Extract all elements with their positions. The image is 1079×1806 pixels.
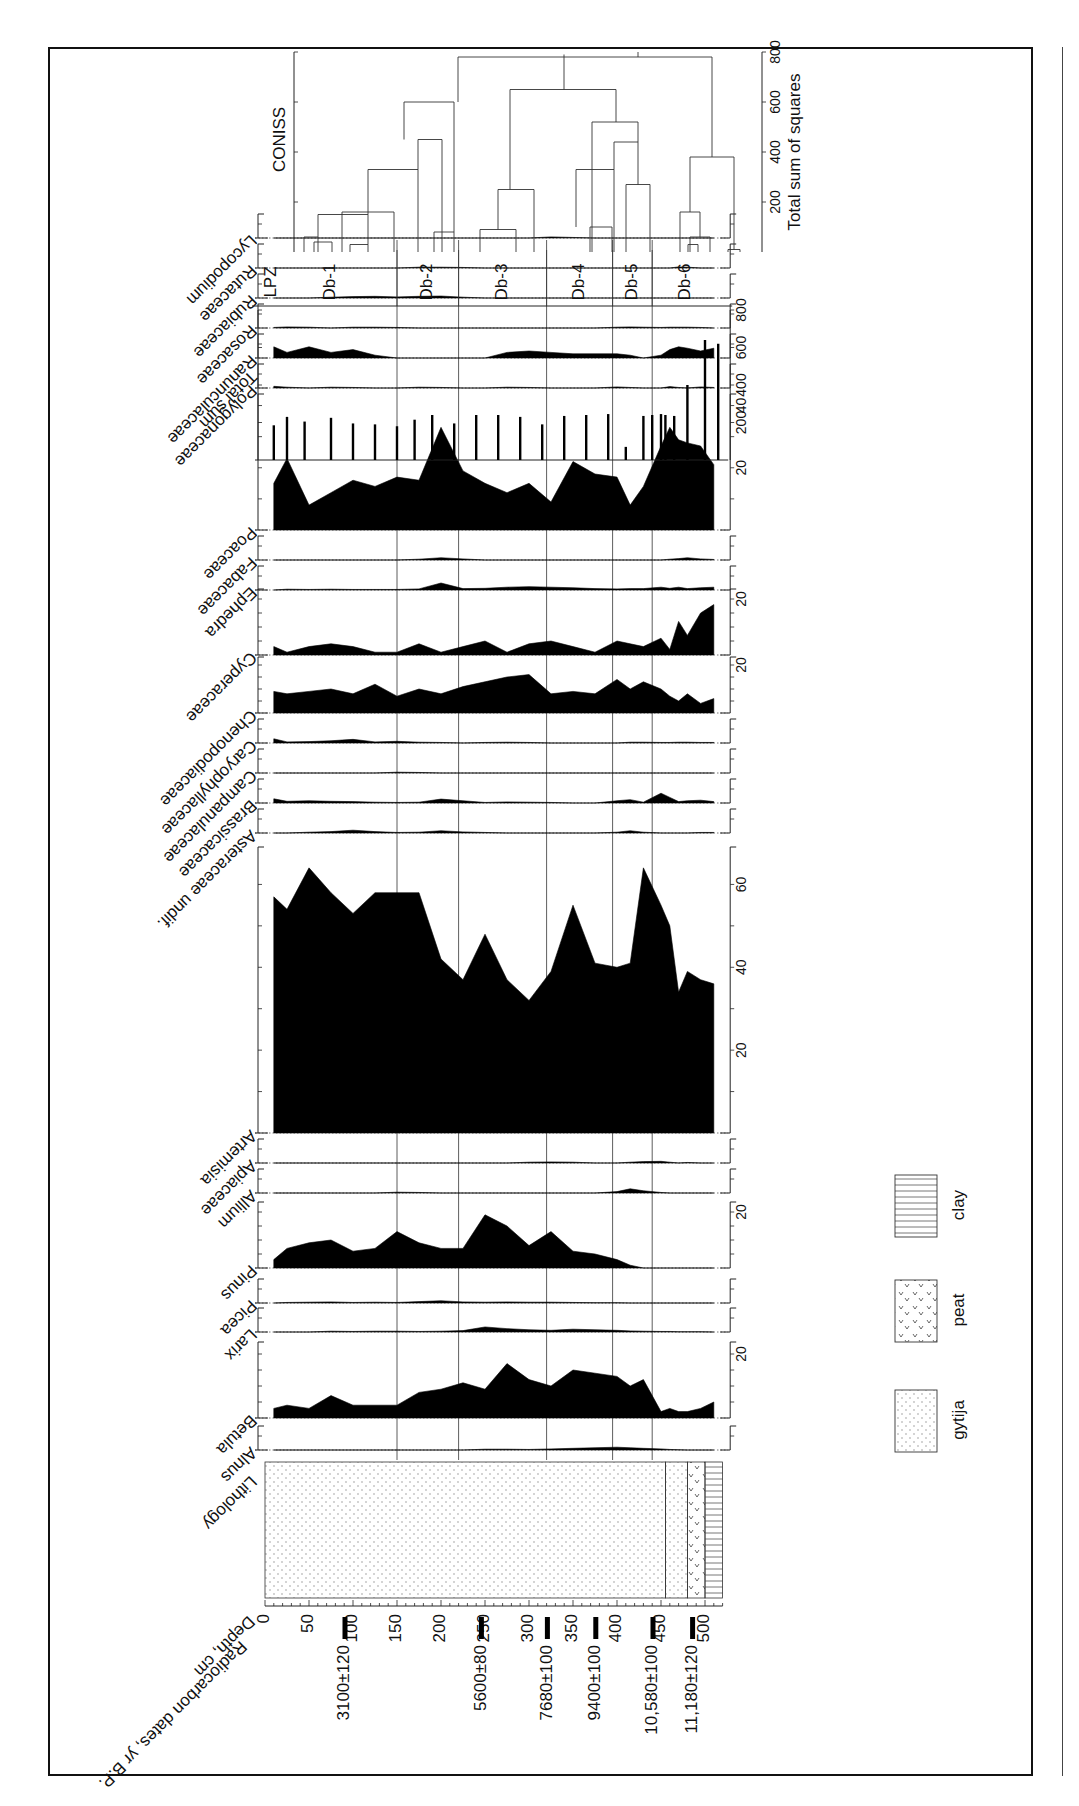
- panel-fabaceae: Fabaceae: [194, 536, 737, 620]
- lpz-label: LPZ: [261, 266, 280, 297]
- depth-tick-label: 0: [254, 1614, 273, 1623]
- panel-apiaceae: Apiaceae: [197, 1139, 736, 1220]
- radiocarbon-date: 11,180±120: [682, 1645, 701, 1733]
- scale-tick-label: 60: [733, 876, 749, 892]
- zone-label: Db-6: [675, 264, 694, 301]
- pollen-diagram: Alnus20BetulaLarixPicea20PinusAlliumApia…: [0, 0, 1079, 1806]
- panel-poaceae: 2040Poaceae: [200, 394, 749, 584]
- depth-tick-label: 150: [386, 1614, 405, 1642]
- total-sum-tick: 200: [733, 411, 749, 435]
- scale-tick-label: 20: [733, 591, 749, 607]
- lithology-unit-gytija: [265, 1462, 665, 1598]
- legend-swatch-peat: [895, 1280, 937, 1342]
- radiocarbon-date: 9400±100: [585, 1645, 604, 1721]
- zone-label: Db-2: [417, 264, 436, 301]
- coniss-tick: 600: [767, 90, 783, 114]
- depth-tick-label: 300: [518, 1614, 537, 1642]
- scale-tick-label: 40: [733, 959, 749, 975]
- zone-label: Db-4: [569, 264, 588, 301]
- depth-tick-label: 50: [298, 1614, 317, 1633]
- coniss-tick: 400: [767, 140, 783, 164]
- panel-ephedra: Ephedra: [201, 566, 736, 642]
- taxa-panels: Alnus20BetulaLarixPicea20PinusAlliumApia…: [154, 214, 750, 1487]
- legend-label: peat: [949, 1293, 968, 1326]
- zone-label: Db-5: [622, 264, 641, 301]
- coniss-label: CONISS: [270, 107, 289, 172]
- radiocarbon-date: 5600±80: [471, 1645, 490, 1711]
- lithology-column: Lithology: [199, 1462, 723, 1598]
- coniss-axis-label: Total sum of squares: [785, 74, 804, 231]
- total-sum-tick: 800: [733, 298, 749, 322]
- depth-tick-label: 200: [430, 1614, 449, 1642]
- taxon-label: Pinus: [217, 1261, 261, 1305]
- lithology-unit-clay: [705, 1462, 723, 1598]
- lithology-unit-peat: [687, 1462, 705, 1598]
- lithology-unit-gytija: [665, 1462, 687, 1598]
- lithology-legend: gytijapeatclay: [895, 1175, 968, 1452]
- depth-tick-label: 500: [694, 1614, 713, 1642]
- legend-label: gytija: [949, 1400, 968, 1440]
- scale-tick-label: 20: [733, 460, 749, 476]
- scale-tick-label: 20: [733, 1042, 749, 1058]
- total-sum-tick: 600: [733, 336, 749, 360]
- panel-artemisia: 204060Artemisia: [197, 847, 750, 1190]
- radiocarbon-date: 7680±100: [537, 1645, 556, 1721]
- total-sum-tick: 400: [733, 373, 749, 397]
- coniss-dendrogram: 200400600800Total sum of squaresCONISS: [270, 40, 804, 252]
- panel-larix: Larix: [221, 1308, 736, 1365]
- total-sum-panel: 200400600800Total sum: [196, 298, 749, 460]
- radiocarbon-label: Radiocarbon dates, yr B.P.: [95, 1637, 251, 1793]
- zone-label: Db-1: [320, 264, 339, 301]
- depth-tick-label: 350: [562, 1614, 581, 1642]
- panel-pinus: 20Pinus: [217, 1202, 749, 1305]
- depth-tick-label: 250: [474, 1614, 493, 1642]
- lpz-zones: Db-1Db-2Db-3Db-4Db-5Db-6LPZ: [252, 250, 732, 306]
- radiocarbon-date: 10,580±100: [642, 1645, 661, 1735]
- legend-label: clay: [949, 1189, 968, 1220]
- radiocarbon-date: 3100±120: [334, 1645, 353, 1721]
- legend-swatch-gytija: [895, 1390, 937, 1452]
- zone-boundaries: [397, 240, 652, 1460]
- coniss-tick: 200: [767, 190, 783, 214]
- panel-betula: 20Betula: [213, 1342, 749, 1459]
- legend-swatch-clay: [895, 1175, 937, 1237]
- scale-tick-label: 20: [733, 657, 749, 673]
- zone-label: Db-3: [492, 264, 511, 301]
- panel-rosaceae: Rosaceae: [193, 304, 736, 389]
- scale-tick-label: 20: [733, 1204, 749, 1220]
- coniss-tick: 800: [767, 40, 783, 64]
- panel-allium: Allium: [214, 1169, 736, 1232]
- depth-tick-label: 400: [606, 1614, 625, 1642]
- scale-tick-label: 20: [733, 1346, 749, 1362]
